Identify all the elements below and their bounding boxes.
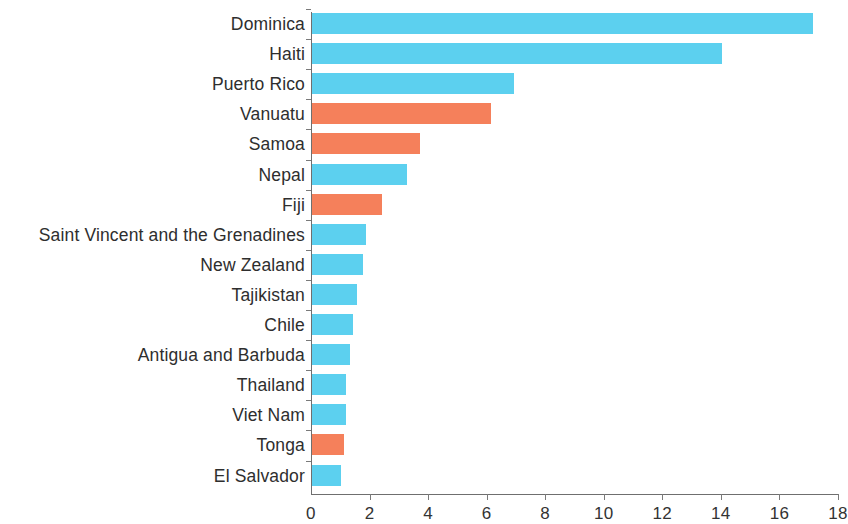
y-axis-tick bbox=[306, 99, 311, 100]
x-axis-tick-label: 12 bbox=[653, 504, 673, 524]
bar-tonga bbox=[312, 434, 344, 455]
bar-viet-nam bbox=[312, 404, 346, 425]
y-axis-tick bbox=[306, 340, 311, 341]
y-axis-tick bbox=[306, 370, 311, 371]
bar-vanuatu bbox=[312, 103, 491, 124]
y-axis-tick bbox=[306, 9, 311, 10]
y-axis-tick bbox=[306, 220, 311, 221]
category-label: Vanuatu bbox=[240, 104, 305, 125]
bar-tajikistan bbox=[312, 284, 357, 305]
category-label: Saint Vincent and the Grenadines bbox=[39, 225, 305, 246]
category-label: Viet Nam bbox=[232, 405, 305, 426]
x-axis-tick-label: 8 bbox=[540, 504, 550, 524]
bar-fiji bbox=[312, 194, 382, 215]
bar-puerto-rico bbox=[312, 73, 514, 94]
x-axis-tick bbox=[370, 494, 371, 500]
y-axis-tick bbox=[306, 39, 311, 40]
x-axis-tick bbox=[779, 494, 780, 500]
y-axis-tick bbox=[306, 250, 311, 251]
x-axis-tick bbox=[545, 494, 546, 500]
bar-new-zealand bbox=[312, 254, 363, 275]
y-axis-tick bbox=[306, 310, 311, 311]
x-axis-tick-label: 18 bbox=[828, 504, 848, 524]
category-label: Nepal bbox=[259, 165, 305, 186]
x-axis-tick bbox=[662, 494, 663, 500]
category-label: Thailand bbox=[237, 375, 305, 396]
x-axis-tick bbox=[604, 494, 605, 500]
x-axis-tick-label: 14 bbox=[711, 504, 731, 524]
bar-haiti bbox=[312, 43, 722, 64]
y-axis-tick bbox=[306, 69, 311, 70]
bar-thailand bbox=[312, 374, 346, 395]
y-axis-tick bbox=[306, 400, 311, 401]
bar-antigua-and-barbuda bbox=[312, 344, 350, 365]
bar-samoa bbox=[312, 133, 420, 154]
y-axis-tick bbox=[306, 160, 311, 161]
category-label: Chile bbox=[264, 315, 305, 336]
y-axis-tick bbox=[306, 461, 311, 462]
x-axis-tick-label: 16 bbox=[770, 504, 790, 524]
x-axis-tick bbox=[487, 494, 488, 500]
bar-chile bbox=[312, 314, 353, 335]
x-axis-tick-label: 2 bbox=[365, 504, 375, 524]
y-axis-tick bbox=[306, 129, 311, 130]
x-axis-line bbox=[311, 494, 838, 495]
y-axis-tick bbox=[306, 280, 311, 281]
category-label: Samoa bbox=[249, 134, 305, 155]
category-label: Haiti bbox=[269, 44, 305, 65]
x-axis-tick-label: 10 bbox=[594, 504, 614, 524]
bar-el-salvador bbox=[312, 465, 341, 486]
category-label: Tajikistan bbox=[232, 285, 305, 306]
bar-saint-vincent-and-the-grenadines bbox=[312, 224, 366, 245]
category-label: Puerto Rico bbox=[212, 74, 305, 95]
category-label: El Salvador bbox=[214, 466, 305, 487]
x-axis-tick bbox=[721, 494, 722, 500]
chart-title bbox=[0, 0, 846, 1]
category-label: Fiji bbox=[282, 195, 305, 216]
x-axis-tick-label: 6 bbox=[482, 504, 492, 524]
y-axis-tick bbox=[306, 430, 311, 431]
x-axis-tick bbox=[838, 494, 839, 500]
category-label: Tonga bbox=[257, 435, 305, 456]
x-axis-tick bbox=[428, 494, 429, 500]
plot-area: 024681012141618 bbox=[311, 12, 846, 494]
bar-nepal bbox=[312, 164, 407, 185]
category-label: New Zealand bbox=[200, 255, 305, 276]
x-axis-tick-label: 4 bbox=[423, 504, 433, 524]
category-labels: DominicaHaitiPuerto RicoVanuatuSamoaNepa… bbox=[0, 12, 305, 494]
category-label: Dominica bbox=[231, 14, 305, 35]
x-axis-tick-label: 0 bbox=[306, 504, 316, 524]
y-axis-tick bbox=[306, 190, 311, 191]
category-label: Antigua and Barbuda bbox=[138, 345, 305, 366]
bar-dominica bbox=[312, 13, 813, 34]
